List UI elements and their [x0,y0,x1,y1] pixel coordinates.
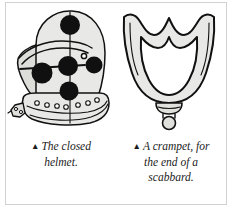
caption-text: A crampet, for [143,140,210,152]
figure-closed-helmet [6,3,116,138]
helmet-buckle-hole-left [14,107,17,110]
helmet-buckle [11,103,25,117]
caption-line: ▲The closed [10,139,112,155]
caption-crampet: ▲A crampet, for the end of a scabbard. [116,139,226,186]
caption-text: The closed [41,140,91,152]
figure-crampet [116,3,226,138]
closed-helmet-drawing [6,3,116,138]
helmet-roundel-center [58,56,78,76]
caption-closed-helmet: ▲The closed helmet. [6,139,116,186]
helmet-buckle-hole-right [19,110,22,113]
helmet-roundel-bottom [60,82,79,101]
helmet-visor-pivot-rivet [81,53,86,58]
caption-line: ▲A crampet, for [120,139,222,155]
triangle-bullet-icon: ▲ [31,141,39,151]
captions-row: ▲The closed helmet. ▲A crampet, for the … [6,139,226,186]
helmet-roundel-right [86,57,103,74]
triangle-bullet-icon: ▲ [133,141,141,151]
crampet-drawing [116,3,226,138]
helmet-roundel-top [60,15,80,35]
caption-line: scabbard. [120,170,222,186]
helmet-buckle-strap-tip [8,111,11,113]
crampet-ball-finial [163,117,176,130]
illustration-page: ▲The closed helmet. ▲A crampet, for the … [0,0,234,215]
caption-line: the end of a [120,155,222,171]
helmet-roundel-left [32,63,53,84]
figures-row [6,3,226,138]
caption-line: helmet. [10,155,112,171]
